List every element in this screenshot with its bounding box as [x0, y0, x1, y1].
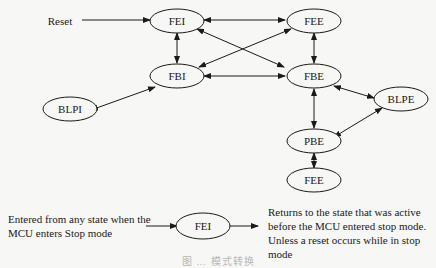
node-label-blpi: BLPI [58, 103, 82, 115]
edge-pbe-blpe [334, 108, 382, 137]
node-label-fei-stop: FEI [195, 220, 212, 232]
edge-fee-fbi [199, 29, 291, 67]
stop-exit-line-1: Returns to the state that was active [268, 205, 426, 219]
edge-fbe-blpe [334, 86, 374, 98]
stop-entry-line-1: Entered from any state when the [8, 212, 151, 226]
edge-fbi-blpi [91, 87, 155, 110]
node-label-fbe: FBE [304, 70, 324, 82]
stop-exit-line-3: Unless a reset occurs while in stop [268, 233, 426, 247]
node-label-fee-bottom: FEE [304, 174, 324, 186]
stop-exit-line-2: before the MCU entered stop mode. [268, 219, 426, 233]
node-label-blpe: BLPE [388, 93, 415, 105]
node-label-fbi: FBI [168, 70, 185, 82]
node-label-fee-top: FEE [304, 15, 324, 27]
reset-label: Reset [48, 15, 72, 27]
node-label-fei: FEI [169, 15, 186, 27]
edge-fei-fbe [197, 29, 284, 67]
node-label-pbe: PBE [304, 135, 324, 147]
stop-entry-text: Entered from any state when the MCU ente… [8, 212, 151, 240]
stop-entry-line-2: MCU enters Stop mode [8, 226, 151, 240]
figure-caption: 图 … 模式转换 [0, 253, 436, 268]
